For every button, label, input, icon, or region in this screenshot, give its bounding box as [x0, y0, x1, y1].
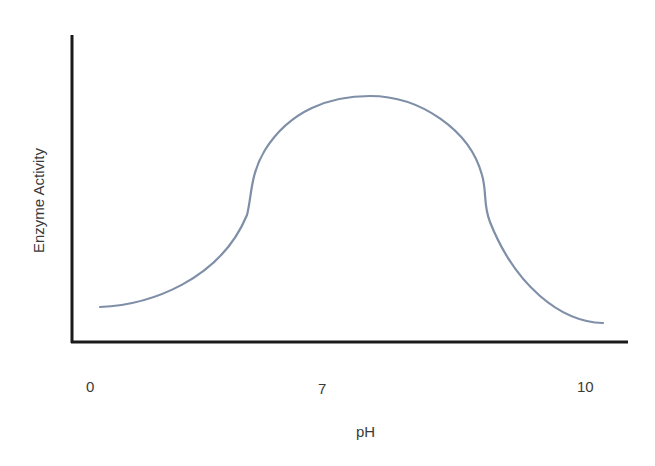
chart-canvas — [0, 0, 655, 466]
enzyme-activity-curve — [100, 96, 603, 323]
x-tick-label-7: 7 — [318, 380, 326, 397]
x-tick-label-0: 0 — [86, 378, 94, 395]
x-tick-label-10: 10 — [577, 378, 594, 395]
x-axis-title: pH — [356, 423, 375, 440]
y-axis-title: Enzyme Activity — [30, 148, 47, 253]
